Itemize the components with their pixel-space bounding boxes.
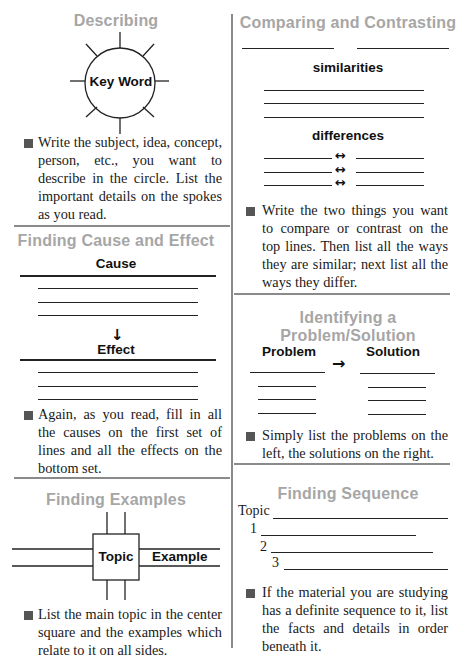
difference-line	[264, 185, 332, 186]
bullet-icon	[246, 207, 255, 216]
similarity-line	[264, 117, 424, 118]
sequence-step-number: 2	[260, 539, 267, 555]
bullet-icon	[24, 139, 33, 148]
problem-line	[258, 413, 316, 414]
compare-item-line	[357, 48, 449, 49]
section-divider	[234, 463, 450, 465]
sequence-topic-label: Topic	[238, 503, 270, 519]
section-divider	[14, 477, 230, 479]
sequence-instruction: If the material you are studying has a d…	[262, 583, 448, 655]
problem-solution-title-line2: Problem/Solution	[232, 326, 464, 345]
solution-line	[368, 400, 426, 401]
cause-line	[38, 288, 198, 289]
similarities-label: similarities	[232, 60, 464, 75]
describing-instruction: Write the subject, idea, concept, person…	[38, 133, 222, 223]
solution-line	[368, 387, 426, 388]
bullet-icon	[24, 611, 33, 620]
cause-effect-title: Finding Cause and Effect	[0, 232, 232, 250]
sequence-title: Finding Sequence	[232, 485, 464, 503]
sequence-step-line	[261, 535, 416, 536]
effect-line	[38, 399, 198, 400]
double-arrow-icon: ↔	[335, 175, 346, 190]
example-label: Example	[152, 549, 208, 564]
bullet-icon	[246, 589, 255, 598]
sequence-step-number: 3	[272, 555, 279, 571]
cause-header-line	[20, 275, 216, 277]
differences-label: differences	[232, 128, 464, 143]
difference-line	[264, 172, 332, 173]
effect-label: Effect	[0, 342, 232, 357]
difference-line	[356, 172, 424, 173]
sequence-step-number: 1	[250, 521, 257, 537]
problem-label: Problem	[262, 344, 316, 359]
sequence-topic-line	[273, 518, 448, 519]
sequence-step-line	[284, 569, 448, 570]
problem-line	[258, 399, 316, 400]
comparing-instruction: Write the two things you want to compare…	[262, 201, 448, 291]
effect-line	[38, 372, 198, 373]
key-word-label: Key Word	[86, 74, 156, 89]
topic-label: Topic	[93, 549, 139, 564]
difference-line	[264, 158, 332, 159]
describing-title: Describing	[0, 12, 232, 30]
similarity-line	[264, 103, 424, 104]
double-arrow-icon: ↔	[335, 148, 346, 163]
sequence-step-line	[271, 552, 433, 553]
cause-line	[38, 302, 198, 303]
solution-label: Solution	[366, 344, 420, 359]
compare-item-line	[242, 48, 334, 49]
right-arrow-icon: →	[332, 354, 345, 373]
bullet-icon	[24, 411, 33, 420]
bullet-icon	[246, 432, 255, 441]
problem-solution-title-line1: Identifying a	[232, 308, 464, 327]
problem-line	[250, 372, 325, 373]
cause-effect-instruction: Again, as you read, fill in all the caus…	[38, 405, 222, 477]
difference-line	[356, 158, 424, 159]
problem-line	[258, 386, 316, 387]
comparing-title: Comparing and Contrasting	[232, 14, 464, 32]
examples-instruction: List the main topic in the center square…	[38, 605, 222, 659]
difference-line	[356, 185, 424, 186]
section-divider	[234, 293, 450, 295]
cause-label: Cause	[0, 256, 232, 271]
cause-line	[38, 315, 198, 316]
examples-title: Finding Examples	[0, 491, 232, 509]
effect-header-line	[20, 359, 216, 361]
effect-line	[38, 386, 198, 387]
similarity-line	[264, 90, 424, 91]
solution-line	[360, 373, 435, 374]
problem-solution-instruction: Simply list the problems on the left, th…	[262, 426, 448, 462]
solution-line	[368, 414, 426, 415]
section-divider	[14, 225, 230, 227]
